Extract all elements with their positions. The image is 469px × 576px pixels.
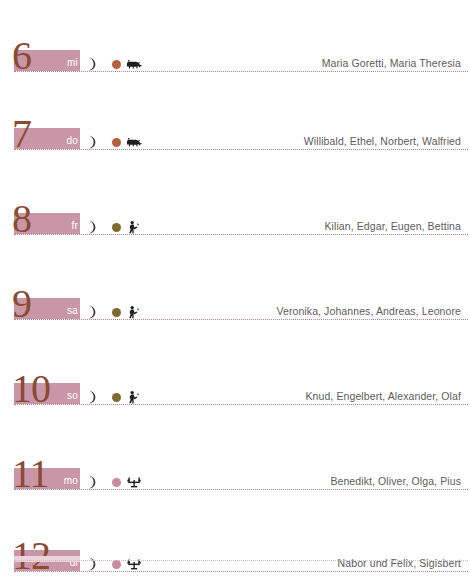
cancer-crab-icon [125,475,143,489]
moon-phase-icon [85,219,99,235]
saints-names: Willibald, Ethel, Norbert, Walfried [304,135,461,148]
day-number: 10 [12,369,50,409]
saints-names: Knud, Engelbert, Alexander, Olaf [305,390,461,403]
day-row[interactable]: 6 mi Maria Goretti, Maria Theresia [0,0,469,78]
weekday-abbreviation: do [60,135,78,147]
taurus-ox-icon [125,57,143,71]
taurus-ox-icon [125,135,143,149]
day-row[interactable]: 11 mo Benedikt, Oliver, Olga, Piu [0,418,469,496]
partial-next-day-row [0,556,469,562]
gemini-figure-icon [125,305,143,319]
saints-names: Benedikt, Oliver, Olga, Pius [330,475,461,488]
zodiac-sign-group [112,57,143,71]
day-row[interactable]: 12 di Nabor und Felix, Sigisbert [0,500,469,576]
day-number: 6 [12,36,31,76]
day-row[interactable]: 9 sa Veronika, Johannes, Andreas, Leonor… [0,248,469,326]
moon-phase-icon [85,56,99,72]
saints-names: Maria Goretti, Maria Theresia [322,57,461,70]
zodiac-sign-group [112,305,143,319]
weekday-abbreviation: mi [60,57,78,69]
zodiac-sign-group [112,475,143,489]
zodiac-sign-group [112,220,143,234]
row-divider [14,404,468,406]
row-divider [14,489,468,491]
row-divider [14,560,468,562]
moon-sign-dot [112,138,121,147]
saints-names: Veronika, Johannes, Andreas, Leonore [276,305,461,318]
day-number: 9 [12,284,31,324]
moon-sign-dot [112,308,121,317]
weekday-abbreviation: fr [60,220,78,232]
row-divider [14,319,468,321]
gemini-figure-icon [125,390,143,404]
moon-sign-dot [112,478,121,487]
day-row[interactable]: 8 fr Kilian, Edgar, Eugen, Bettina [0,163,469,241]
moon-sign-dot [112,223,121,232]
zodiac-sign-group [112,390,143,404]
moon-phase-icon [85,389,99,405]
row-divider [14,149,468,151]
gemini-figure-icon [125,220,143,234]
saints-names: Kilian, Edgar, Eugen, Bettina [324,220,461,233]
row-divider [14,234,468,236]
moon-sign-dot [112,393,121,402]
zodiac-sign-group [112,135,143,149]
moon-phase-icon [85,134,99,150]
moon-phase-icon [85,304,99,320]
day-number: 8 [12,199,31,239]
moon-phase-icon [85,474,99,490]
row-divider [14,571,468,573]
day-number: 11 [12,454,49,494]
weekday-abbreviation: sa [60,305,78,317]
moon-sign-dot [112,60,121,69]
weekday-abbreviation: mo [60,475,78,487]
day-row[interactable]: 10 so Knud, Engelbert, Alexander, Olaf [0,333,469,411]
day-number: 7 [12,114,31,154]
weekday-abbreviation: so [60,390,78,402]
row-divider [14,71,468,73]
day-row[interactable]: 7 do Willibald, Ethel, Norbert, Walfried [0,78,469,156]
